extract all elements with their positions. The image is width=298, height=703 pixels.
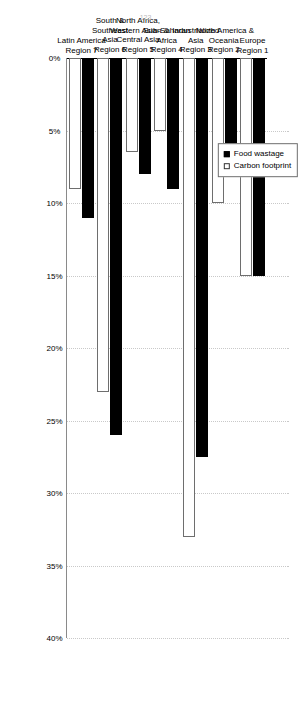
tick-label-25: 25% [43, 416, 67, 425]
bar-carbon-footprint-region-3 [183, 58, 195, 537]
bar-food-wastage-region-5 [139, 58, 151, 174]
bar-food-wastage-region-6 [110, 58, 122, 435]
legend-label-1: Food wastage [234, 148, 284, 160]
tick-label-10: 10% [43, 199, 67, 208]
tick-label-30: 30% [43, 489, 67, 498]
chart-legend: Food wastageCarbon footprint [218, 143, 289, 177]
gridline-40 [67, 638, 289, 639]
legend-entry-2: Carbon footprint [224, 160, 289, 172]
tick-label-35: 35% [43, 561, 67, 570]
tick-label-15: 15% [43, 271, 67, 280]
bar-chart-figure: 0%5%10%15%20%25%30%35%40% Europe Region … [0, 0, 289, 703]
bar-carbon-footprint-region-6 [97, 58, 109, 392]
legend-swatch-white [224, 163, 230, 169]
gridline-30 [67, 493, 289, 494]
tick-label-5: 5% [43, 126, 67, 135]
page-number: 123 [140, 14, 152, 21]
bar-carbon-footprint-region-2 [212, 58, 224, 203]
gridline-25 [67, 421, 289, 422]
legend-swatch-black [224, 151, 230, 157]
tick-label-40: 40% [43, 634, 67, 643]
legend-entry-1: Food wastage [224, 148, 289, 160]
category-label-region-7: Latin America Region 7 [53, 35, 109, 54]
bar-carbon-footprint-region-4 [155, 58, 167, 131]
tick-label-0: 0% [43, 54, 67, 63]
legend-label-2: Carbon footprint [234, 160, 289, 172]
bar-carbon-footprint-region-7 [69, 58, 81, 189]
bar-food-wastage-region-3 [196, 58, 208, 457]
bar-carbon-footprint-region-5 [126, 58, 138, 152]
figure-canvas: 0%5%10%15%20%25%30%35%40% Europe Region … [0, 0, 289, 703]
gridline-35 [67, 566, 289, 567]
bar-food-wastage-region-7 [82, 58, 94, 218]
tick-label-20: 20% [43, 344, 67, 353]
bar-food-wastage-region-4 [168, 58, 180, 189]
